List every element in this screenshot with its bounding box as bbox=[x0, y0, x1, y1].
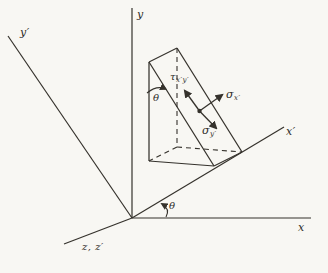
sigma-x-label: σx′ bbox=[226, 89, 241, 102]
theta-origin-arc bbox=[162, 204, 168, 217]
wedge-bottom-right-edge bbox=[214, 152, 242, 166]
coordinate-axes bbox=[8, 8, 311, 244]
sigma-x-arrow bbox=[200, 95, 223, 111]
tau-sub: x′y′ bbox=[176, 76, 189, 84]
sigma-x-sub: x′ bbox=[234, 94, 241, 102]
tau-arrow bbox=[185, 91, 200, 111]
y-prime-axis-line bbox=[8, 36, 132, 218]
x-axis-label: x bbox=[298, 222, 305, 233]
sigma-y-sub: y′ bbox=[210, 130, 217, 138]
sigma-y-label: σy′ bbox=[202, 125, 217, 138]
z-axis-label: z, z′ bbox=[82, 242, 104, 252]
theta-angle-arrows bbox=[147, 88, 168, 217]
wedge-bottom-back-edge bbox=[177, 147, 242, 152]
theta-wedge-label: θ bbox=[153, 93, 160, 103]
wedge-front-bottom-edge bbox=[149, 161, 214, 166]
y-prime-axis-label: y′ bbox=[20, 27, 30, 38]
x-prime-axis-line bbox=[132, 127, 284, 218]
stress-arrows bbox=[185, 91, 222, 128]
x-prime-axis-label: x′ bbox=[286, 126, 296, 137]
stress-transformation-diagram: y y′ x x′ z, z′ θ θ τx′y′ σx′ σy′ bbox=[0, 0, 328, 273]
sigma-x-base: σ bbox=[226, 88, 234, 101]
sigma-y-base: σ bbox=[202, 124, 210, 137]
y-axis-label: y bbox=[137, 9, 144, 20]
wedge-bottom-back-left-edge bbox=[149, 147, 177, 161]
diagram-canvas bbox=[0, 0, 328, 273]
theta-origin-label: θ bbox=[169, 201, 176, 211]
wedge-top-edge bbox=[149, 48, 177, 62]
tau-xy-label: τx′y′ bbox=[170, 72, 189, 84]
